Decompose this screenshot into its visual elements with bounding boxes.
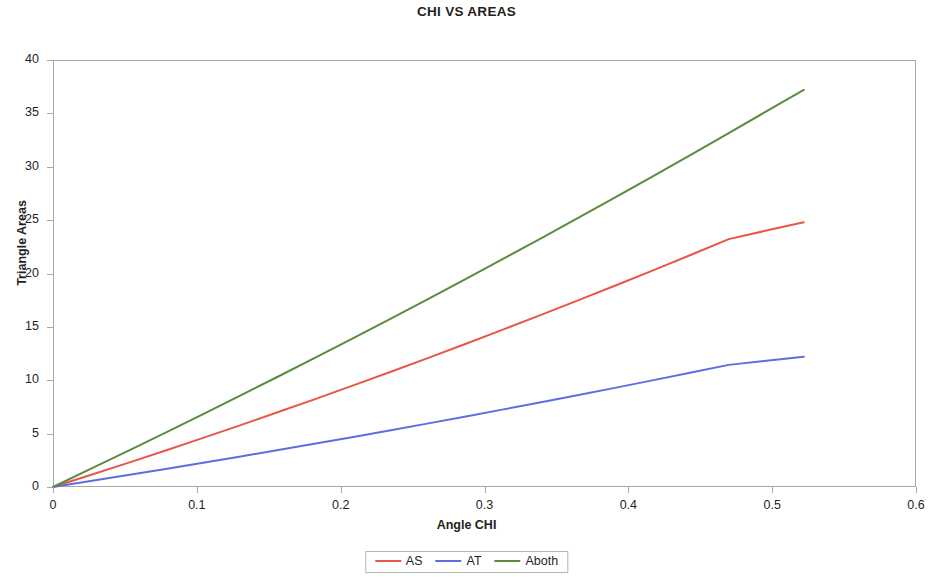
- legend-label: AS: [406, 555, 423, 568]
- y-axis-tick-mark: [47, 220, 53, 221]
- y-axis-tick-label: 35: [5, 105, 39, 119]
- y-axis-tick-mark: [47, 274, 53, 275]
- chart-legend: ASATAboth: [365, 551, 568, 573]
- y-axis-tick-label: 15: [5, 319, 39, 333]
- x-axis-tick-label: 0: [28, 498, 78, 512]
- series-line-aboth: [53, 90, 804, 487]
- x-axis-tick-label: 0.1: [172, 498, 222, 512]
- x-axis-title: Angle CHI: [0, 518, 933, 532]
- y-axis-tick-mark: [47, 380, 53, 381]
- y-axis-tick-mark: [47, 327, 53, 328]
- legend-label: AT: [466, 555, 481, 568]
- series-line-as: [53, 222, 804, 487]
- x-axis-tick-mark: [916, 487, 917, 493]
- legend-label: Aboth: [526, 555, 559, 568]
- x-axis-tick-mark: [485, 487, 486, 493]
- y-axis-tick-mark: [47, 434, 53, 435]
- x-axis-tick-mark: [772, 487, 773, 493]
- y-axis-tick-label: 30: [5, 159, 39, 173]
- x-axis-tick-label: 0.6: [891, 498, 933, 512]
- legend-swatch-at: [435, 560, 461, 562]
- legend-swatch-as: [375, 560, 401, 562]
- y-axis-title: Triangle Areas: [15, 173, 29, 313]
- y-axis-tick-mark: [47, 113, 53, 114]
- series-line-at: [53, 357, 804, 487]
- x-axis-tick-label: 0.5: [747, 498, 797, 512]
- x-axis-tick-mark: [628, 487, 629, 493]
- x-axis-tick-label: 0.4: [603, 498, 653, 512]
- chart-title: CHI VS AREAS: [0, 4, 933, 19]
- x-axis-tick-mark: [341, 487, 342, 493]
- y-axis-tick-label: 10: [5, 372, 39, 386]
- y-axis-tick-label: 0: [5, 479, 39, 493]
- plot-lines: [53, 60, 916, 487]
- legend-swatch-aboth: [495, 560, 521, 562]
- y-axis-tick-mark: [47, 60, 53, 61]
- legend-entry-aboth[interactable]: Aboth: [495, 555, 559, 568]
- y-axis-tick-label: 5: [5, 426, 39, 440]
- chart-container: CHI VS AREAS 0510152025303540 00.10.20.3…: [0, 0, 933, 577]
- y-axis-tick-mark: [47, 167, 53, 168]
- legend-entry-at[interactable]: AT: [435, 555, 481, 568]
- x-axis-tick-mark: [197, 487, 198, 493]
- x-axis-tick-label: 0.3: [460, 498, 510, 512]
- y-axis-tick-label: 40: [5, 52, 39, 66]
- x-axis-tick-label: 0.2: [316, 498, 366, 512]
- legend-entry-as[interactable]: AS: [375, 555, 423, 568]
- x-axis-tick-mark: [53, 487, 54, 493]
